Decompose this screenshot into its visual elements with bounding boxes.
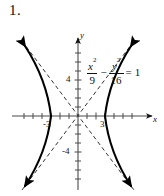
hyperbola-graph: x y -3 3 4 -4 [0,18,164,196]
problem-number: 1. [9,2,21,19]
x-axis [12,113,152,120]
x-axis-label: x [153,114,157,124]
y-axis-label: y [80,30,84,40]
equation-annotation: x2 9 − y2 16 = 1 [86,60,140,86]
equation-term-2: y2 16 [109,60,124,86]
term2-numerator: y2 [110,60,122,73]
x-tick-label-3: 3 [100,119,105,129]
equation-term-1: x2 9 [86,60,98,86]
y-axis [75,38,82,190]
graph-svg [0,18,164,196]
figure-container: 1. [0,0,164,196]
y-tick-label-neg4: -4 [62,146,70,156]
y-tick-label-4: 4 [66,74,71,84]
equation-operator: − [99,67,107,78]
term1-denominator: 9 [87,73,97,86]
term1-numerator: x2 [86,60,98,73]
equation-rhs: 1 [134,67,141,78]
term2-denominator: 16 [109,73,124,86]
x-tick-label-neg3: -3 [43,119,51,129]
equation-equals: = [125,67,133,78]
term1-exponent: 2 [93,56,97,64]
term2-exponent: 2 [117,56,121,64]
